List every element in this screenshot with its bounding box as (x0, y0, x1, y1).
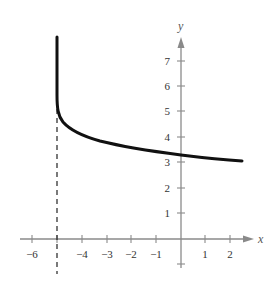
y-tick-label: 3 (165, 156, 171, 168)
y-tick-label: 2 (165, 182, 171, 194)
y-tick-label: 7 (165, 55, 171, 67)
function-curve (57, 37, 242, 161)
x-tick-label: −6 (26, 248, 38, 260)
x-tick-label: −3 (101, 248, 113, 260)
x-tick-label: 2 (227, 248, 233, 260)
x-tick-label: 1 (202, 248, 208, 260)
y-tick-label: 6 (165, 80, 171, 92)
x-tick-label: −4 (76, 248, 88, 260)
y-axis-arrow-icon (178, 37, 185, 48)
y-axis-label: y (177, 19, 184, 33)
y-tick-label: 4 (165, 131, 171, 143)
x-axis-label: x (257, 232, 264, 246)
x-axis-arrow-icon (243, 236, 254, 243)
x-tick-label: −2 (125, 248, 137, 260)
chart: −6 −4 −3 −2 −1 1 2 7 6 5 4 3 2 1 x y (0, 0, 277, 288)
x-tick-label: −1 (150, 248, 162, 260)
y-tick-label: 5 (165, 105, 171, 117)
y-tick-label: 1 (165, 207, 171, 219)
